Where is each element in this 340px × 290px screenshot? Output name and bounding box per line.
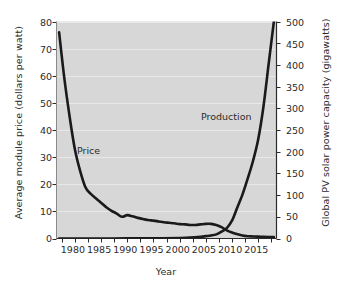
y-axis-left-tick-label: 30 xyxy=(28,152,52,163)
y-axis-right-tick-label: 200 xyxy=(286,147,312,158)
series-label-production: Production xyxy=(201,111,252,122)
y-axis-left-tick-label: 70 xyxy=(28,44,52,55)
y-axis-right-tick-label: 350 xyxy=(286,82,312,93)
y-axis-right-tick-label: 0 xyxy=(286,233,312,244)
y-axis-left-tick-label: 60 xyxy=(28,71,52,82)
y-axis-left-title: Average module price (dollars per watt) xyxy=(13,18,24,228)
y-axis-right-tick-label: 150 xyxy=(286,168,312,179)
y-axis-right-tick-label: 50 xyxy=(286,211,312,222)
y-axis-left-tick-label: 0 xyxy=(28,233,52,244)
y-axis-left-tick-label: 40 xyxy=(28,125,52,136)
y-axis-right-tick-label: 100 xyxy=(286,190,312,201)
y-axis-left-tick-label: 10 xyxy=(28,206,52,217)
y-axis-left-tick-label: 20 xyxy=(28,179,52,190)
y-axis-right-tick-label: 500 xyxy=(286,17,312,28)
y-axis-left-tick-label: 80 xyxy=(28,17,52,28)
x-axis-ticks xyxy=(63,239,272,243)
y-axis-right-tick-label: 400 xyxy=(286,60,312,71)
y-axis-left-ticks xyxy=(53,23,57,240)
x-axis-tick-label: 2015 xyxy=(239,244,273,255)
y-axis-right-tick-label: 450 xyxy=(286,39,312,50)
y-axis-left-tick-label: 50 xyxy=(28,98,52,109)
solar-price-production-chart: Average module price (dollars per watt) … xyxy=(0,0,340,290)
y-axis-right-title: Global PV solar power capacity (gigawatt… xyxy=(320,18,331,228)
y-axis-right-tick-label: 250 xyxy=(286,125,312,136)
series-label-price: Price xyxy=(77,145,100,156)
y-axis-right-tick-label: 300 xyxy=(286,103,312,114)
x-axis-title: Year xyxy=(56,266,276,277)
